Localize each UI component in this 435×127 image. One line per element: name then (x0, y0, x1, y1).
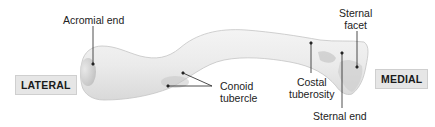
costal-tuberosity-line-2: tuberosity (289, 88, 335, 100)
costal-tuberosity-label: Costal tuberosity (289, 76, 335, 100)
medial-orientation-label: MEDIAL (375, 69, 428, 89)
conoid-tubercle-line-1: Conoid (220, 80, 257, 92)
lateral-orientation-label: LATERAL (15, 75, 77, 95)
sternal-end-label: Sternal end (313, 110, 367, 122)
sternal-facet-label: Sternal facet (339, 7, 372, 31)
conoid-tubercle-label: Conoid tubercle (220, 80, 257, 104)
clavicle-diagram: Acromial end Conoid tubercle Costal tube… (0, 0, 435, 127)
conoid-tubercle-line-2: tubercle (220, 92, 257, 104)
costal-tuberosity-line-1: Costal (289, 76, 335, 88)
acromial-end-label: Acromial end (63, 14, 124, 26)
sternal-facet-line-1: Sternal (339, 7, 372, 19)
sternal-facet-line-2: facet (339, 19, 372, 31)
